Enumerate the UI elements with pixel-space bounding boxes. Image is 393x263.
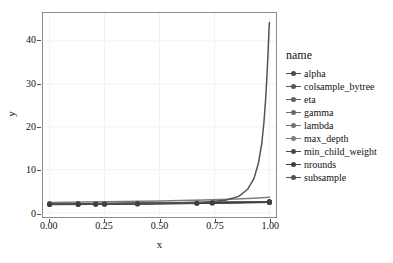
y-axis-tick-mark [37, 127, 41, 128]
legend-key-point-icon [286, 171, 301, 184]
legend-key-point-icon [286, 145, 301, 158]
legend-item[interactable]: gamma [286, 106, 393, 119]
legend-item-label: gamma [301, 106, 333, 119]
legend-key-point-icon [286, 93, 301, 106]
legend-item[interactable]: alpha [286, 67, 393, 80]
series-point-marker [194, 201, 199, 206]
x-axis-tick-mark [215, 219, 216, 223]
legend-items: alphacolsample_bytreeetagammalambdamax_d… [286, 67, 393, 184]
legend-item-label: max_depth [301, 132, 348, 145]
legend-key-point-icon [286, 80, 301, 93]
series-point-marker [47, 202, 52, 207]
legend-item-label: eta [301, 93, 316, 106]
series-point-marker [135, 201, 140, 206]
series-point-marker [267, 200, 272, 205]
y-axis-tick-label: 30 [26, 79, 36, 89]
x-axis-title: x [42, 238, 277, 250]
x-axis-tick-labels: 0.000.250.500.751.00 [0, 221, 393, 235]
legend-item-label: subsample [301, 171, 346, 184]
legend-item[interactable]: eta [286, 93, 393, 106]
y-axis-tick-mark [37, 170, 41, 171]
chart-figure: 010203040 y 0.000.250.500.751.00 x name … [0, 0, 393, 263]
series-point-marker [93, 202, 98, 207]
series-point-marker [76, 202, 81, 207]
y-axis-title: y [5, 94, 17, 134]
x-axis-tick-mark [49, 219, 50, 223]
gridlines [43, 13, 276, 217]
legend-item[interactable]: nrounds [286, 158, 393, 171]
y-axis-tick-mark [37, 40, 41, 41]
legend-key-point-icon [286, 158, 301, 171]
legend-item[interactable]: min_child_weight [286, 145, 393, 158]
x-axis-tick-mark [160, 219, 161, 223]
y-axis-tick-label: 40 [26, 35, 36, 45]
legend-key-point-icon [286, 119, 301, 132]
legend-item[interactable]: lambda [286, 119, 393, 132]
y-axis-tick-label: 10 [26, 165, 36, 175]
legend-item[interactable]: colsample_bytree [286, 80, 393, 93]
x-axis-tick-mark [104, 219, 105, 223]
x-axis-tick-mark [270, 219, 271, 223]
series-point-marker [210, 200, 215, 205]
y-axis-tick-label: 20 [26, 122, 36, 132]
legend-key-point-icon [286, 132, 301, 145]
plot-panel [42, 12, 277, 218]
legend-title: name [286, 48, 393, 62]
y-axis-tick-mark [37, 214, 41, 215]
legend-item-label: nrounds [301, 158, 336, 171]
legend-item[interactable]: subsample [286, 171, 393, 184]
legend: name alphacolsample_bytreeetagammalambda… [286, 48, 393, 184]
y-axis-tick-mark [37, 84, 41, 85]
legend-item-label: min_child_weight [301, 145, 377, 158]
legend-item-label: colsample_bytree [301, 80, 375, 93]
legend-key-point-icon [286, 106, 301, 119]
y-axis-tick-label: 0 [31, 209, 36, 219]
legend-item[interactable]: max_depth [286, 132, 393, 145]
series-point-marker [102, 202, 107, 207]
legend-item-label: alpha [301, 67, 326, 80]
legend-item-label: lambda [301, 119, 333, 132]
plot-svg [43, 13, 276, 217]
legend-key-point-icon [286, 67, 301, 80]
